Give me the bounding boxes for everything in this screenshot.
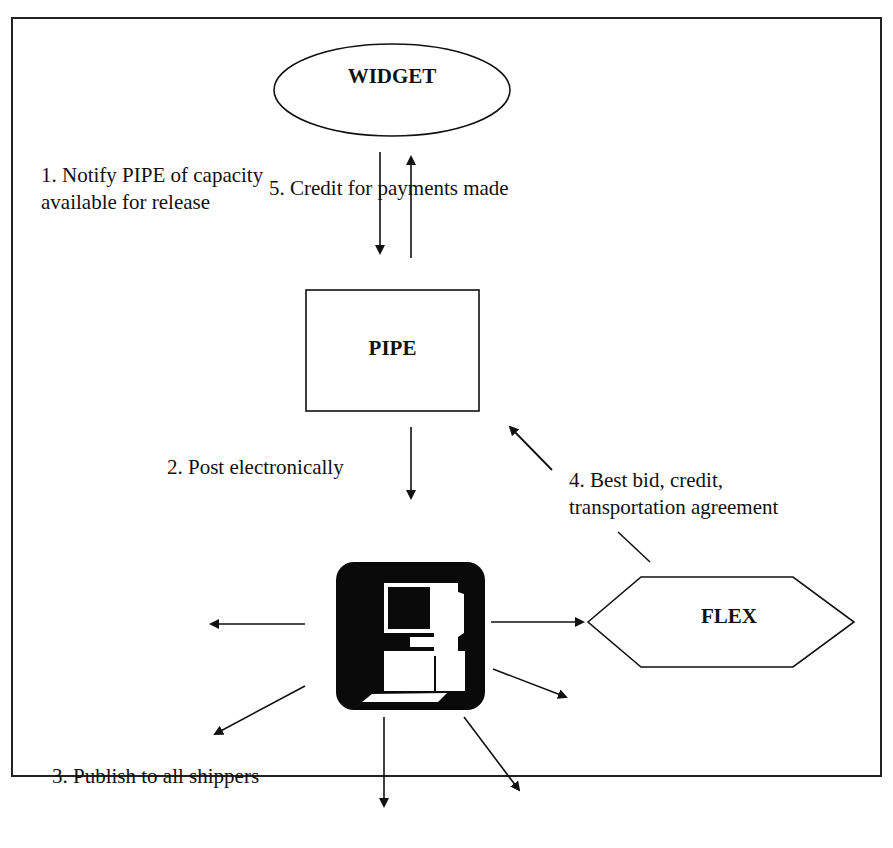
pipe-label: PIPE	[306, 336, 479, 361]
step1-line1: 1. Notify PIPE of capacity	[41, 162, 263, 189]
step5-label: 5. Credit for payments made	[269, 175, 509, 202]
step1-label: 1. Notify PIPE of capacity available for…	[41, 162, 263, 216]
step3-label: 3. Publish to all shippers	[52, 763, 259, 790]
arrow-publish-down-left	[215, 686, 305, 734]
widget-label: WIDGET	[334, 64, 450, 89]
step4-line1: 4. Best bid, credit,	[569, 467, 778, 494]
step4-leader-line	[618, 532, 650, 562]
arrow-publish-right	[493, 669, 566, 697]
step4-line2: transportation agreement	[569, 494, 778, 521]
step1-line2: available for release	[41, 189, 263, 216]
diagram-canvas	[0, 0, 893, 848]
arrow-publish-down-right	[464, 717, 519, 790]
arrow-step4	[510, 427, 552, 470]
widget-node	[274, 44, 510, 136]
flex-label: FLEX	[684, 604, 774, 629]
step2-label: 2. Post electronically	[167, 454, 344, 481]
step4-label: 4. Best bid, credit, transportation agre…	[569, 467, 778, 521]
computer-icon	[336, 562, 485, 710]
